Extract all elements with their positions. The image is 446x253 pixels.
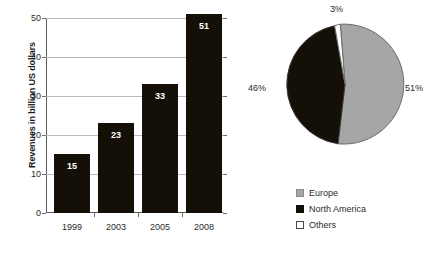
legend-item-europe[interactable]: Europe xyxy=(296,185,366,201)
bar-chart-plot-area: 50 40 30 20 10 0 15 23 33 51 1999 2003 2… xyxy=(46,18,223,213)
bar-value-2008: 51 xyxy=(186,21,222,31)
y-tick-mark-right-40 xyxy=(223,57,227,58)
legend-swatch-north-america-icon xyxy=(296,205,304,213)
bar-value-2005: 33 xyxy=(142,91,178,101)
y-tick-mark-right-0 xyxy=(223,213,227,214)
y-tick-mark-50 xyxy=(42,18,46,19)
legend-item-north-america[interactable]: North America xyxy=(296,201,366,217)
y-tick-mark-0 xyxy=(42,213,46,214)
y-axis-line xyxy=(46,18,47,213)
legend-item-others[interactable]: Others xyxy=(296,217,366,233)
x-tick-label-2003: 2003 xyxy=(106,222,126,232)
y-tick-label-10: 10 xyxy=(31,169,41,179)
y-tick-label-30: 30 xyxy=(31,91,41,101)
y-tick-mark-right-30 xyxy=(223,96,227,97)
legend-swatch-europe-icon xyxy=(296,189,304,197)
pie-legend: Europe North America Others xyxy=(296,185,366,233)
bar-2005[interactable]: 33 xyxy=(142,84,178,213)
y-tick-mark-right-10 xyxy=(223,174,227,175)
x-tick-label-1999: 1999 xyxy=(62,222,82,232)
y-tick-label-20: 20 xyxy=(31,130,41,140)
pie-label-others: 3% xyxy=(330,4,343,14)
x-tick-label-2005: 2005 xyxy=(150,222,170,232)
x-tick-label-2008: 2008 xyxy=(194,222,214,232)
pie-label-north-america: 46% xyxy=(248,83,266,93)
y-tick-mark-30 xyxy=(42,96,46,97)
x-tick-mark-1 xyxy=(94,213,95,217)
pie-label-europe: 51% xyxy=(405,83,423,93)
legend-label-others: Others xyxy=(309,220,336,230)
y-axis-title: Revenues in billion US dollars xyxy=(27,25,37,185)
bar-chart: Revenues in billion US dollars 50 40 30 … xyxy=(0,0,246,253)
y-tick-mark-20 xyxy=(42,135,46,136)
pie-slice-europe[interactable] xyxy=(338,24,404,144)
bar-value-1999: 15 xyxy=(54,161,90,171)
pie-chart: 3% 46% 51% Europe North America Others xyxy=(246,0,446,253)
pie-graphic xyxy=(283,18,407,150)
legend-swatch-others-icon xyxy=(296,221,304,229)
y-tick-mark-right-20 xyxy=(223,135,227,136)
bar-1999[interactable]: 15 xyxy=(54,154,90,213)
bar-2008[interactable]: 51 xyxy=(186,14,222,213)
legend-label-europe: Europe xyxy=(309,188,338,198)
x-tick-mark-3 xyxy=(182,213,183,217)
y-tick-label-50: 50 xyxy=(31,13,41,23)
y-tick-label-0: 0 xyxy=(36,208,41,218)
y-tick-mark-10 xyxy=(42,174,46,175)
y-tick-mark-right-50 xyxy=(223,18,227,19)
y-tick-label-40: 40 xyxy=(31,52,41,62)
bar-value-2003: 23 xyxy=(98,130,134,140)
bar-2003[interactable]: 23 xyxy=(98,123,134,213)
legend-label-north-america: North America xyxy=(309,204,366,214)
x-tick-mark-2 xyxy=(138,213,139,217)
y-tick-mark-40 xyxy=(42,57,46,58)
pie-slice-north-america[interactable] xyxy=(287,26,345,144)
